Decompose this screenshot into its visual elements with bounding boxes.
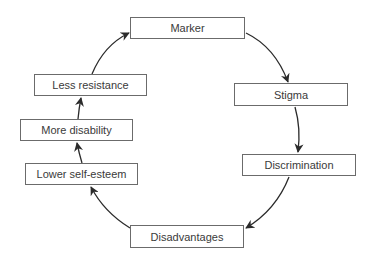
arrow-lower-self-esteem-to-more-disability — [77, 143, 82, 163]
node-label: Less resistance — [52, 79, 128, 91]
stigma-cycle-diagram: Marker Stigma Discrimination Disadvantag… — [0, 0, 372, 262]
node-label: Lower self-esteem — [37, 168, 127, 180]
node-discrimination: Discrimination — [242, 154, 356, 176]
node-marker: Marker — [130, 17, 245, 39]
node-less-resistance: Less resistance — [34, 74, 147, 96]
node-label: Discrimination — [264, 159, 333, 171]
node-label: Disadvantages — [151, 231, 224, 243]
node-stigma: Stigma — [234, 83, 348, 106]
arrow-stigma-to-discrimination — [295, 107, 299, 152]
arrow-disadvantages-to-lower-self-esteem — [91, 187, 130, 228]
node-disadvantages: Disadvantages — [130, 225, 244, 248]
arrow-less-resistance-to-marker — [92, 33, 129, 74]
arrow-marker-to-stigma — [246, 33, 288, 82]
node-label: More disability — [41, 124, 111, 136]
node-label: Marker — [170, 22, 204, 34]
arrow-more-disability-to-less-resistance — [78, 98, 81, 119]
node-more-disability: More disability — [20, 119, 133, 141]
node-label: Stigma — [274, 89, 308, 101]
node-lower-self-esteem: Lower self-esteem — [25, 163, 138, 185]
arrow-discrimination-to-disadvantages — [246, 177, 289, 228]
